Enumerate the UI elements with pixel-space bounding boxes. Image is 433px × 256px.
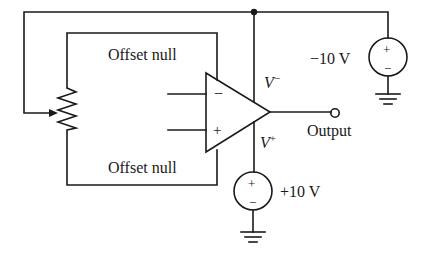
negative-source-minus-sign: − [384, 61, 391, 76]
inverting-sign: − [214, 85, 223, 102]
ground-icon [376, 94, 400, 104]
junction-dot [251, 9, 257, 15]
svg-text:V+: V+ [260, 132, 276, 151]
potentiometer-icon [58, 88, 76, 130]
offset-null-circuit-diagram: − + Offset null Offset null V− V+ Output… [0, 0, 433, 256]
noninverting-sign: + [213, 122, 221, 138]
positive-source-plus-sign: + [248, 176, 255, 191]
output-label: Output [307, 122, 352, 140]
ground-icon [241, 232, 265, 242]
negative-source-plus-sign: + [383, 42, 390, 57]
positive-supply-label: +10 V [280, 183, 321, 200]
v-plus-label: V+ [260, 132, 276, 151]
offset-null-bottom-wire [67, 130, 217, 185]
offset-null-bottom-label: Offset null [108, 159, 177, 176]
svg-text:V−: V− [264, 72, 281, 91]
negative-supply-label: −10 V [310, 50, 351, 67]
offset-null-top-label: Offset null [108, 46, 177, 63]
v-minus-label: V− [264, 72, 281, 91]
positive-source-minus-sign: − [249, 195, 256, 210]
output-terminal-icon [331, 109, 339, 117]
